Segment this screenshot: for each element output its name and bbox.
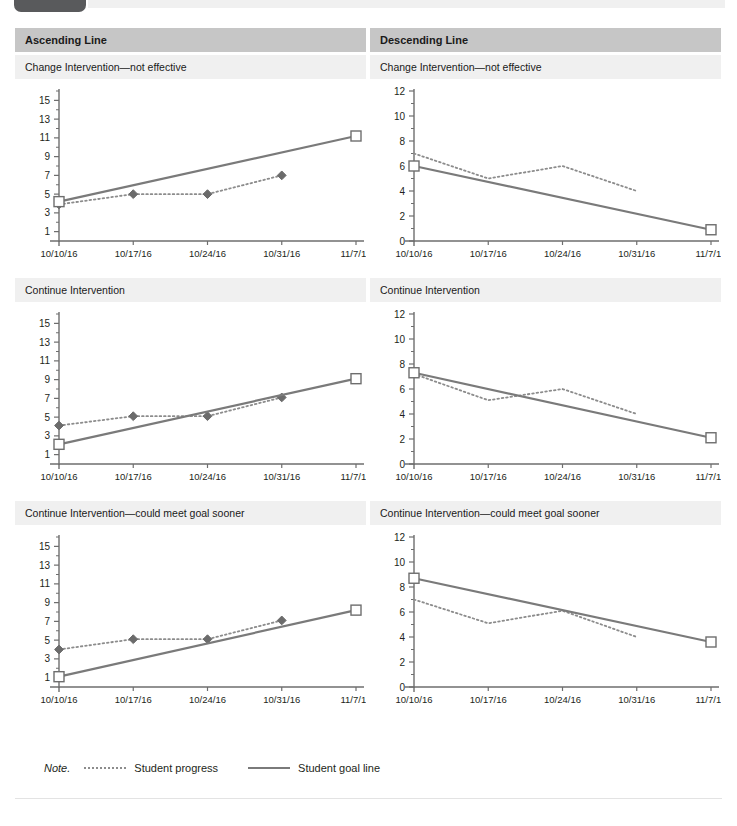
data-point-marker	[409, 573, 419, 583]
subheader-cell-3-right: Continue Intervention—could meet goal so…	[370, 498, 721, 525]
data-point-marker	[277, 616, 286, 625]
svg-text:10/31/16: 10/31/16	[618, 248, 655, 259]
svg-text:6: 6	[399, 384, 405, 395]
svg-text:10/31/16: 10/31/16	[618, 471, 655, 482]
chart-ascending-change-intervention: 1357911131510/10/1610/17/1610/24/1610/31…	[15, 79, 366, 275]
svg-text:10/17/16: 10/17/16	[470, 471, 507, 482]
svg-text:13: 13	[39, 337, 51, 348]
svg-text:2: 2	[399, 657, 405, 668]
svg-text:8: 8	[399, 359, 405, 370]
svg-text:11/7/16: 11/7/16	[341, 694, 367, 705]
subheader-row-3: Continue Intervention—could meet goal so…	[15, 498, 722, 525]
data-point-marker	[54, 197, 64, 207]
chart-grid: Ascending Line Descending Line Change In…	[15, 28, 722, 721]
column-title-descending: Descending Line	[370, 28, 721, 52]
svg-text:5: 5	[44, 189, 50, 200]
svg-text:2: 2	[399, 211, 405, 222]
data-point-marker	[54, 672, 64, 682]
svg-text:7: 7	[44, 393, 50, 404]
series-line	[59, 175, 282, 204]
svg-text:10/10/16: 10/10/16	[41, 694, 78, 705]
legend-swatch-student-goal-line	[248, 767, 290, 769]
svg-text:6: 6	[399, 607, 405, 618]
chart-canvas: 1357911131510/10/1610/17/1610/24/1610/31…	[15, 525, 366, 721]
svg-text:10/24/16: 10/24/16	[544, 694, 581, 705]
svg-text:10/17/16: 10/17/16	[115, 471, 152, 482]
svg-text:15: 15	[39, 541, 51, 552]
data-point-marker	[351, 605, 361, 615]
svg-text:9: 9	[44, 151, 50, 162]
chart-row-1: 1357911131510/10/1610/17/1610/24/1610/31…	[15, 79, 722, 275]
row-subtitle-3-right: Continue Intervention—could meet goal so…	[370, 501, 721, 525]
svg-text:9: 9	[44, 597, 50, 608]
svg-text:11/7/16: 11/7/16	[696, 694, 722, 705]
svg-text:9: 9	[44, 374, 50, 385]
row-subtitle-2-right: Continue Intervention	[370, 278, 721, 302]
data-point-marker	[129, 190, 138, 199]
chart-canvas: 02468101210/10/1610/17/1610/24/1610/31/1…	[370, 79, 721, 275]
subheader-row-2: Continue Intervention Continue Intervent…	[15, 275, 722, 302]
data-point-marker	[351, 131, 361, 141]
data-point-marker	[351, 374, 361, 384]
svg-text:11: 11	[40, 355, 51, 366]
svg-text:15: 15	[39, 95, 51, 106]
data-point-marker	[203, 190, 212, 199]
subheader-row-1: Change Intervention—not effective Change…	[15, 52, 722, 79]
svg-text:4: 4	[399, 632, 405, 643]
svg-text:0: 0	[399, 459, 405, 470]
svg-text:11: 11	[40, 578, 51, 589]
svg-text:10/31/16: 10/31/16	[263, 471, 300, 482]
svg-text:0: 0	[399, 236, 405, 247]
row-subtitle-1-left: Change Intervention—not effective	[15, 55, 366, 79]
legend-label-student-goal-line: Student goal line	[298, 762, 380, 774]
bottom-divider	[15, 798, 722, 799]
column-title-ascending: Ascending Line	[15, 28, 366, 52]
svg-text:10/10/16: 10/10/16	[396, 471, 433, 482]
data-point-marker	[706, 433, 716, 443]
svg-text:1: 1	[44, 672, 50, 683]
svg-text:10: 10	[394, 111, 406, 122]
svg-text:13: 13	[39, 560, 51, 571]
svg-text:8: 8	[399, 136, 405, 147]
svg-text:8: 8	[399, 582, 405, 593]
legend-label-student-progress: Student progress	[134, 762, 218, 774]
row-subtitle-2-left: Continue Intervention	[15, 278, 366, 302]
svg-text:12: 12	[394, 86, 406, 97]
subheader-cell-3-left: Continue Intervention—could meet goal so…	[15, 498, 366, 525]
svg-text:5: 5	[44, 412, 50, 423]
svg-text:7: 7	[44, 616, 50, 627]
chart-canvas: 1357911131510/10/1610/17/1610/24/1610/31…	[15, 79, 366, 275]
svg-text:13: 13	[39, 114, 51, 125]
data-point-marker	[706, 225, 716, 235]
svg-text:3: 3	[44, 430, 50, 441]
column-left: Ascending Line	[15, 28, 366, 52]
data-point-marker	[55, 421, 64, 430]
page-tab[interactable]	[14, 0, 86, 12]
svg-text:6: 6	[399, 161, 405, 172]
svg-text:12: 12	[394, 532, 406, 543]
svg-text:10/24/16: 10/24/16	[544, 471, 581, 482]
data-point-marker	[706, 637, 716, 647]
series-line	[414, 373, 711, 438]
svg-text:10/10/16: 10/10/16	[41, 471, 78, 482]
data-point-marker	[409, 368, 419, 378]
subheader-cell-1-right: Change Intervention—not effective	[370, 52, 721, 79]
svg-text:15: 15	[39, 318, 51, 329]
svg-text:10/31/16: 10/31/16	[618, 694, 655, 705]
svg-text:10: 10	[394, 334, 406, 345]
svg-text:11/7/16: 11/7/16	[341, 471, 367, 482]
top-band	[88, 0, 725, 8]
chart-descending-continue-intervention: 02468101210/10/1610/17/1610/24/1610/31/1…	[370, 302, 721, 498]
svg-text:3: 3	[44, 653, 50, 664]
svg-text:1: 1	[44, 226, 50, 237]
svg-text:10/24/16: 10/24/16	[544, 248, 581, 259]
series-line	[414, 166, 711, 230]
svg-text:3: 3	[44, 207, 50, 218]
chart-ascending-could-meet-goal-sooner: 1357911131510/10/1610/17/1610/24/1610/31…	[15, 525, 366, 721]
chart-canvas: 02468101210/10/1610/17/1610/24/1610/31/1…	[370, 525, 721, 721]
svg-text:10/10/16: 10/10/16	[396, 248, 433, 259]
subheader-cell-1-left: Change Intervention—not effective	[15, 52, 366, 79]
svg-text:11: 11	[40, 132, 51, 143]
svg-text:10/17/16: 10/17/16	[115, 248, 152, 259]
svg-text:10/24/16: 10/24/16	[189, 248, 226, 259]
